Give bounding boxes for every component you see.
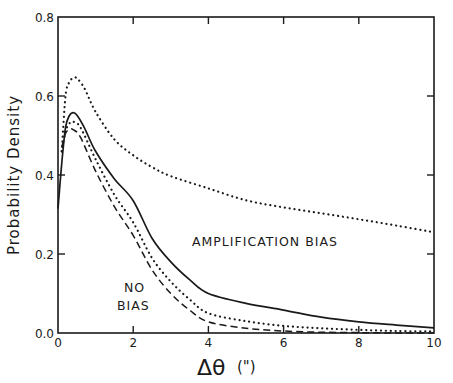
x-tick-label: 2 xyxy=(129,336,137,350)
axis-tick-labels: 02468100.00.20.40.60.8 xyxy=(35,11,442,350)
data-curves xyxy=(58,77,434,333)
x-tick-label: 4 xyxy=(205,336,213,350)
y-tick-label: 0.6 xyxy=(35,90,54,104)
x-axis-title-unit: (") xyxy=(237,358,256,376)
annotation-bias: BIAS xyxy=(117,298,150,313)
annotation-no: NO xyxy=(124,280,145,295)
y-tick-label: 0.0 xyxy=(35,327,54,341)
annotation-amplification-bias: AMPLIFICATION BIAS xyxy=(192,234,338,249)
y-tick-label: 0.4 xyxy=(35,169,54,183)
x-tick-label: 0 xyxy=(54,336,62,350)
plot-frame xyxy=(58,17,434,333)
curve-dotted xyxy=(62,77,434,232)
y-tick-label: 0.2 xyxy=(35,248,54,262)
probability-density-chart: 02468100.00.20.40.60.8 Probability Densi… xyxy=(0,0,453,383)
y-axis-title: Probability Density xyxy=(5,95,23,255)
x-tick-label: 6 xyxy=(280,336,288,350)
x-axis-title-symbol: Δθ xyxy=(197,355,226,380)
x-tick-label: 8 xyxy=(355,336,363,350)
curve-solid xyxy=(58,113,434,328)
y-tick-label: 0.8 xyxy=(35,11,54,25)
axis-ticks xyxy=(58,17,434,333)
x-tick-label: 10 xyxy=(426,336,441,350)
